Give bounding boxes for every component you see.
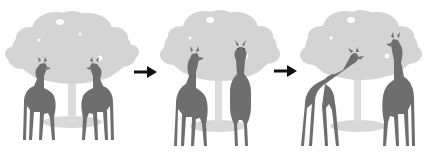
panel-1 xyxy=(4,0,137,161)
arrow-1 xyxy=(134,64,158,80)
right-arrow-icon xyxy=(134,64,158,80)
panel-3 xyxy=(295,0,431,161)
figure-canvas xyxy=(0,0,433,161)
panel-2 xyxy=(160,0,280,161)
tree-canopy xyxy=(160,10,280,81)
panel-3-scene xyxy=(295,0,431,161)
tree-canopy xyxy=(5,11,139,84)
tree-canopy xyxy=(300,10,422,80)
panel-2-scene xyxy=(160,0,280,161)
panel-1-scene xyxy=(4,0,137,161)
